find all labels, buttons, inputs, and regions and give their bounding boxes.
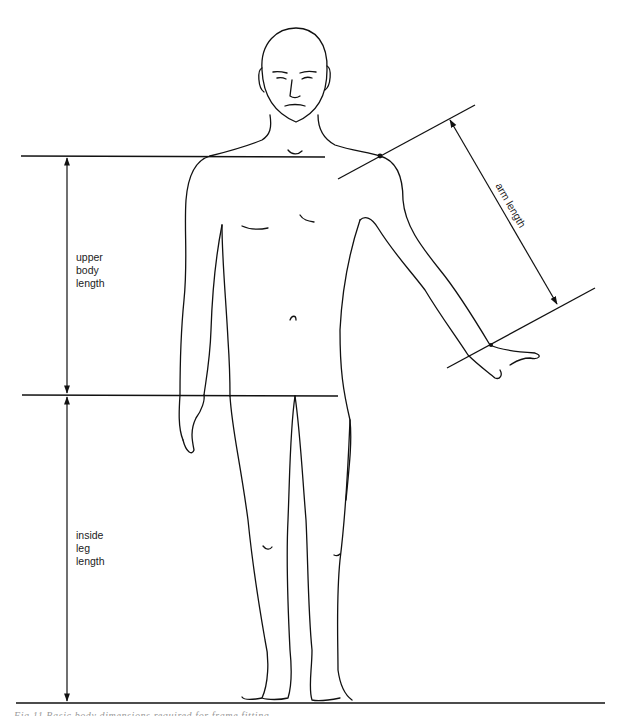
mouth bbox=[285, 105, 305, 107]
upper-body-length-label: upper body length bbox=[76, 251, 105, 290]
shoulder-line bbox=[21, 156, 325, 157]
left-shoulder-arm-outer bbox=[179, 156, 210, 440]
right-knee bbox=[334, 554, 340, 556]
right-arm-outer bbox=[380, 156, 539, 365]
left-arm-inner bbox=[204, 225, 222, 395]
head bbox=[262, 28, 327, 122]
left-hand bbox=[183, 395, 204, 453]
arm-length-arrow bbox=[450, 120, 557, 304]
inside-leg-length-label-line: leg bbox=[76, 542, 105, 555]
upper-body-length-label-line: upper bbox=[76, 251, 105, 264]
reference-lines bbox=[16, 105, 605, 703]
torso-right-side bbox=[340, 220, 360, 500]
chest-right bbox=[300, 215, 314, 222]
inside-leg-length-label-line: inside bbox=[76, 529, 105, 542]
inside-leg-length-label-line: length bbox=[76, 555, 105, 568]
shoulder-point-marker bbox=[378, 154, 383, 159]
wrist-point-marker bbox=[489, 343, 493, 347]
upper-body-length-label-line: length bbox=[76, 277, 105, 290]
torso-left-side bbox=[222, 225, 230, 396]
left-knee bbox=[263, 546, 272, 549]
left-brow bbox=[273, 72, 287, 73]
human-figure bbox=[179, 28, 539, 701]
collarbone bbox=[288, 150, 302, 154]
upper-body-length-label-line: body bbox=[76, 264, 105, 277]
right-arm-inner bbox=[360, 218, 501, 379]
nose bbox=[290, 80, 300, 98]
shoulder-point-line bbox=[338, 105, 475, 179]
dimension-arrows bbox=[67, 120, 557, 701]
navel bbox=[290, 316, 296, 320]
left-leg-outer bbox=[230, 396, 268, 699]
inside-leg-length-label: inside leg length bbox=[76, 529, 105, 568]
right-leg-inner bbox=[295, 396, 340, 701]
neck-left bbox=[210, 115, 271, 156]
right-eye bbox=[302, 77, 312, 79]
chest-left bbox=[242, 226, 268, 229]
body-dimensions-diagram bbox=[0, 0, 617, 723]
neck-right bbox=[318, 115, 380, 156]
right-brow bbox=[300, 71, 316, 73]
left-eye bbox=[277, 78, 286, 79]
